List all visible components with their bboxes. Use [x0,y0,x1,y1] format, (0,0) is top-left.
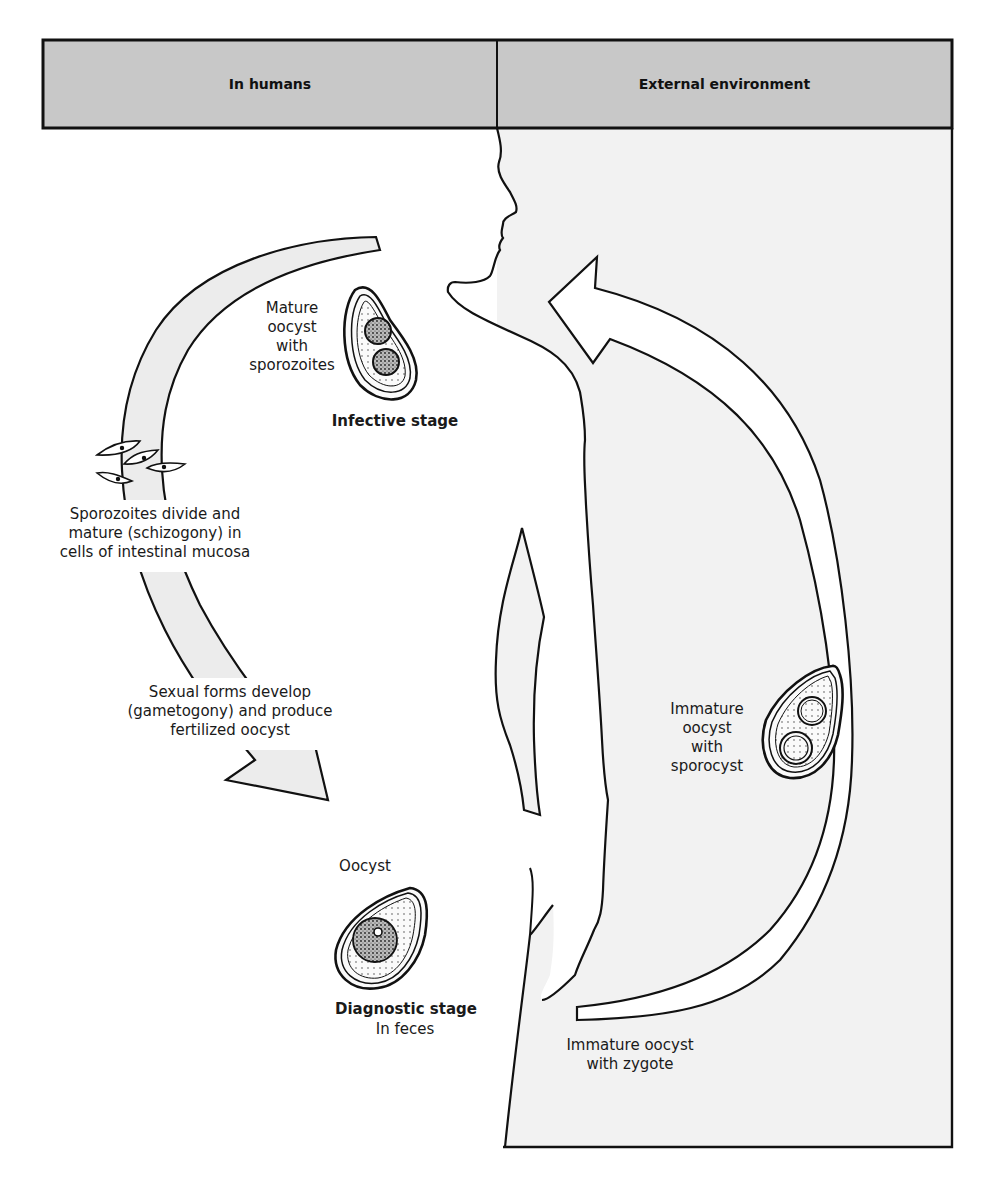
diagnostic-oocyst-icon [335,888,426,989]
label-line: with [662,738,752,757]
oocyst-label: Oocyst [330,857,400,876]
label-line: mature (schizogony) in [20,524,290,543]
immature-zygote-label: Immature oocyst with zygote [560,1036,700,1074]
label-line: fertilized oocyst [105,721,355,740]
gametogony-label: Sexual forms develop (gametogony) and pr… [105,683,355,740]
mature-oocyst-label: Mature oocyst with sporozoites [232,299,352,375]
lifecycle-diagram [0,0,981,1179]
diagnostic-stage-label: Diagnostic stage [335,1000,475,1019]
schizogony-label: Sporozoites divide and mature (schizogon… [20,505,290,562]
label-line: Mature [232,299,352,318]
header-in-humans: In humans [43,40,497,128]
label-line: Sporozoites divide and [20,505,290,524]
infective-stage-label: Infective stage [320,412,470,431]
header-external-environment: External environment [497,40,952,128]
label-line: sporocyst [662,757,752,776]
label-line: Immature [662,700,752,719]
immature-sporocyst-label: Immature oocyst with sporocyst [662,700,752,776]
label-line: Immature oocyst [560,1036,700,1055]
mature-oocyst-icon [344,287,416,399]
label-line: with zygote [560,1055,700,1074]
label-line: cells of intestinal mucosa [20,543,290,562]
label-line: (gametogony) and produce [105,702,355,721]
label-line: with [232,337,352,356]
label-line: oocyst [232,318,352,337]
label-line: oocyst [662,719,752,738]
label-line: sporozoites [232,356,352,375]
in-feces-label: In feces [350,1020,460,1039]
label-line: Sexual forms develop [105,683,355,702]
